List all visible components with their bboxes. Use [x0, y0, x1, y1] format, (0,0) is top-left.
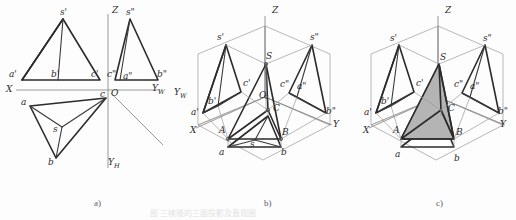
vertex-label-B-b: B	[282, 128, 289, 137]
vertex-label-b-dprime-b: b"	[326, 107, 336, 116]
axis-label-x-c: X	[363, 126, 369, 135]
axis-label-z-b: Z	[272, 6, 278, 15]
axis-label-x-b: X	[190, 126, 196, 135]
vertex-label-B-c: B	[456, 128, 463, 137]
vertex-label-b-prime-c: b'	[381, 97, 389, 106]
vertex-label-a-prime-c: a'	[364, 108, 372, 117]
vertex-label-b-a: b	[48, 158, 54, 167]
vertex-label-b-b: b	[281, 148, 287, 157]
vertex-label-S-b: S	[266, 52, 272, 61]
axis-oy45-a	[111, 93, 163, 145]
axis-label-o-a: O	[111, 89, 118, 98]
vertex-label-c-a: c	[100, 90, 105, 99]
vertex-label-S-c: S	[440, 53, 446, 62]
vertex-label-c-prime-c: c'	[416, 79, 424, 88]
vertex-label-A-b: A	[219, 126, 226, 135]
vertex-label-a-dprime-c: a"	[470, 82, 480, 91]
vertex-label-a-prime-b: a'	[191, 108, 199, 117]
vertex-label-c-dprime-c: c"	[454, 80, 463, 89]
panel-caption-a: a)	[94, 198, 101, 208]
vertex-label-s-a: s	[53, 125, 58, 134]
axis-label-z-a: Z	[112, 6, 118, 15]
vertex-label-C-b: C	[273, 104, 280, 113]
axis-label-y-c: Y	[500, 120, 506, 129]
top-view-triangle-a	[30, 98, 106, 158]
vertex-label-s-prime-c: s'	[390, 34, 397, 43]
vertex-label-b-prime-b: b'	[208, 97, 216, 106]
vertex-label-s-dprime-a: s"	[126, 8, 135, 17]
vertex-label-A-c: A	[393, 126, 400, 135]
vertex-label-a-a: a	[21, 98, 26, 107]
front-view-triangle-a	[22, 19, 100, 80]
vertex-label-c-dprime-b: c"	[280, 80, 289, 89]
axis-label-yh-a: YH	[108, 158, 120, 169]
axis-label-y-b: Y	[333, 120, 339, 129]
vertex-label-c-dprime-a: c"	[107, 70, 116, 79]
vertex-label-s-b: s	[250, 140, 255, 149]
figure-caption-ghost: 图 三棱锥的三面投影及直观图	[150, 207, 380, 217]
axis-label-o-b: O	[259, 91, 266, 100]
side-view-triangle-a	[115, 19, 158, 80]
vertex-label-b-dprime-c: b"	[498, 107, 508, 116]
axis-label-yw-a: YW	[152, 84, 165, 95]
vertex-label-s-prime-b: s'	[217, 33, 224, 42]
panel-caption-c: c)	[436, 198, 443, 208]
vertex-label-b-dprime-a: b"	[157, 70, 167, 79]
vertex-label-s-dprime-c: s"	[483, 34, 492, 43]
axis-label-z-c: Z	[445, 6, 451, 15]
panel-a-drawing	[16, 14, 163, 168]
vertex-label-c-prime-b: c'	[243, 79, 251, 88]
vertex-label-b-c: b	[454, 154, 460, 163]
vertex-label-a-prime-a: a'	[9, 70, 17, 79]
axis-label-x-a: X	[6, 85, 12, 94]
vertex-label-a-dprime-b: a"	[297, 82, 307, 91]
vertex-label-a-dprime-a: a"	[123, 72, 133, 81]
vertex-label-a-c: a	[395, 150, 400, 159]
vertex-label-s-prime-a: s'	[60, 8, 67, 17]
vertex-label-a-b: a	[219, 148, 224, 157]
figure-canvas: .h { stroke:#2b2b2b; stroke-width:1.6; f…	[0, 0, 516, 220]
axis-label-yw-b: YW	[174, 88, 187, 99]
vertex-label-c-prime-a: c'	[91, 70, 99, 79]
vertex-label-b-prime-a: b'	[51, 70, 59, 79]
vertex-label-s-dprime-b: s"	[310, 33, 319, 42]
vertex-label-C-c: C	[448, 104, 455, 113]
